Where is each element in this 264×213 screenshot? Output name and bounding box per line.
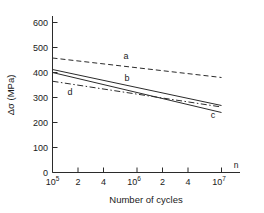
y-axis-title: Δσ (MPa) bbox=[5, 75, 16, 116]
x-tick-label-1e5: 105 bbox=[46, 175, 60, 187]
x-tick-label-1e7: 107 bbox=[212, 175, 226, 187]
curve-label-b: b bbox=[124, 73, 129, 83]
series-line-d bbox=[53, 81, 222, 107]
series-group bbox=[53, 58, 222, 113]
y-tick-label-600: 600 bbox=[33, 18, 48, 28]
y-axis-tick-labels: 600 500 400 300 200 100 0 bbox=[33, 18, 48, 178]
fatigue-chart-figure: 600 500 400 300 200 100 0 105 2 4 106 2 … bbox=[0, 0, 264, 213]
curve-label-c: c bbox=[211, 110, 216, 120]
y-tick-label-200: 200 bbox=[33, 118, 48, 128]
curve-label-d: d bbox=[67, 87, 72, 97]
y-tick-label-300: 300 bbox=[33, 93, 48, 103]
x-axis-ticks bbox=[53, 168, 222, 173]
x-axis-tick-labels: 105 2 4 106 2 4 107 bbox=[46, 175, 227, 187]
x-tick-label-4e5: 4 bbox=[101, 177, 106, 187]
y-tick-label-400: 400 bbox=[33, 68, 48, 78]
x-tick-label-2e6: 2 bbox=[160, 177, 165, 187]
y-tick-label-500: 500 bbox=[33, 43, 48, 53]
y-axis-ticks bbox=[53, 23, 58, 148]
x-tick-label-2e5: 2 bbox=[75, 177, 80, 187]
x-tick-label-4e6: 4 bbox=[185, 177, 190, 187]
axis-corner-label-n: n bbox=[234, 160, 239, 170]
y-tick-label-100: 100 bbox=[33, 143, 48, 153]
x-axis-title: Number of cycles bbox=[109, 194, 183, 205]
curve-labels: a b c d bbox=[67, 51, 215, 120]
curve-label-a: a bbox=[123, 51, 128, 61]
series-line-c bbox=[53, 73, 222, 113]
x-tick-label-1e6: 106 bbox=[127, 175, 141, 187]
chart-svg: 600 500 400 300 200 100 0 105 2 4 106 2 … bbox=[0, 0, 264, 213]
